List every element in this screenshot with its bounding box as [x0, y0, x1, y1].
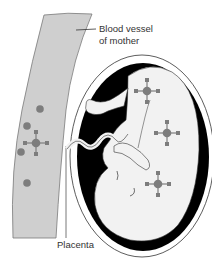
- blood-vessel-label-line1: Blood vessel: [99, 23, 153, 35]
- uterus: [67, 55, 212, 257]
- blood-vessel-label-line2: of mother: [99, 35, 153, 47]
- blood-vessel-label: Blood vessel of mother: [99, 23, 153, 47]
- placenta-label: Placenta: [57, 239, 94, 251]
